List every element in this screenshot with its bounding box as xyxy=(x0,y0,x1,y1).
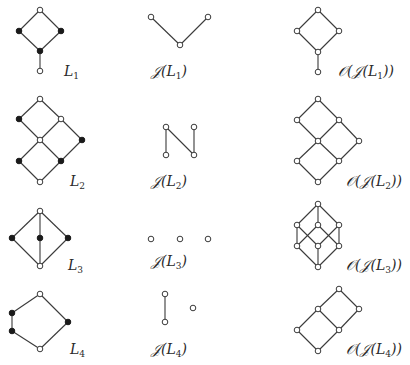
open-node xyxy=(37,179,43,185)
open-node xyxy=(37,291,43,297)
lattice-label-2: L2 xyxy=(70,174,85,191)
filled-node xyxy=(58,158,64,164)
edge xyxy=(40,140,61,161)
open-node xyxy=(177,236,183,242)
join-irreducibles-poset-label-2: 𝒥(L2) xyxy=(151,174,187,191)
edge xyxy=(40,238,68,266)
edge xyxy=(19,99,40,119)
open-node xyxy=(37,7,43,13)
open-node xyxy=(163,152,169,158)
filled-node xyxy=(65,319,71,325)
open-node xyxy=(336,222,342,228)
lattice-4 xyxy=(9,291,71,352)
join-irreducibles-poset-label-3: 𝒥(L3) xyxy=(151,254,187,271)
edge xyxy=(318,99,339,120)
open-node xyxy=(294,222,300,228)
edge xyxy=(297,31,318,52)
edge xyxy=(339,120,359,141)
open-node xyxy=(37,137,43,143)
filled-node xyxy=(37,48,43,54)
edge xyxy=(19,161,40,182)
edge xyxy=(318,10,339,31)
lattice-label-3: L3 xyxy=(68,258,83,275)
open-node xyxy=(294,28,300,34)
open-node xyxy=(294,117,300,123)
open-node xyxy=(162,319,168,325)
filled-node xyxy=(79,137,85,143)
lattice-label-1: L1 xyxy=(64,64,79,81)
open-node xyxy=(294,327,300,333)
edge xyxy=(297,330,318,351)
edge xyxy=(339,289,359,309)
filled-node xyxy=(16,158,22,164)
edge xyxy=(40,119,61,140)
open-node xyxy=(315,348,321,354)
filled-node xyxy=(16,116,22,122)
lattice-2 xyxy=(16,96,85,185)
open-node xyxy=(294,158,300,164)
edge xyxy=(40,322,68,349)
join-irreducibles-poset-2 xyxy=(163,124,197,158)
open-node xyxy=(356,306,362,312)
filled-node xyxy=(65,235,71,241)
down-set-lattice-3 xyxy=(294,201,342,270)
edge xyxy=(12,294,40,313)
edge xyxy=(61,140,82,161)
open-node xyxy=(336,158,342,164)
open-node xyxy=(315,69,321,75)
edge xyxy=(297,120,318,141)
edge xyxy=(151,17,180,45)
open-node xyxy=(37,96,43,102)
edge xyxy=(19,119,40,140)
open-node xyxy=(163,124,169,130)
down-set-lattice-label-2: 𝒪(𝒥(L2)) xyxy=(346,174,402,191)
edge xyxy=(318,330,339,351)
lattice-3 xyxy=(9,208,71,269)
edge xyxy=(40,10,61,31)
filled-node xyxy=(58,28,64,34)
edge xyxy=(180,17,208,45)
open-node xyxy=(336,117,342,123)
edge xyxy=(318,246,339,267)
edge xyxy=(19,140,40,161)
open-node xyxy=(58,116,64,122)
join-irreducibles-poset-label-1: 𝒥(L1) xyxy=(151,64,187,81)
filled-node xyxy=(9,235,15,241)
edge xyxy=(318,204,339,225)
open-node xyxy=(37,68,43,74)
edge xyxy=(12,238,40,266)
join-irreducibles-poset-3 xyxy=(148,236,211,242)
edge xyxy=(297,204,318,225)
edge xyxy=(297,10,318,31)
open-node xyxy=(162,291,168,297)
open-node xyxy=(315,201,321,207)
open-node xyxy=(191,124,197,130)
open-node xyxy=(315,306,321,312)
edge xyxy=(297,141,318,161)
open-node xyxy=(191,152,197,158)
edge xyxy=(318,161,339,182)
open-node xyxy=(336,286,342,292)
edge xyxy=(40,294,68,322)
filled-node xyxy=(9,310,15,316)
edge xyxy=(318,120,339,141)
edge xyxy=(19,10,40,31)
open-node xyxy=(315,138,321,144)
down-set-lattice-2 xyxy=(294,96,362,185)
edge xyxy=(297,246,318,267)
edge xyxy=(12,331,40,349)
edge xyxy=(40,161,61,182)
open-node xyxy=(315,264,321,270)
open-node xyxy=(315,7,321,13)
down-set-lattice-label-4: 𝒪(𝒥(L4)) xyxy=(346,342,402,359)
open-node xyxy=(37,346,43,352)
edge xyxy=(40,99,61,119)
open-node xyxy=(315,243,321,249)
join-irreducibles-poset-label-4: 𝒥(L4) xyxy=(151,342,187,359)
down-set-lattice-label-1: 𝒪(𝒥(L1)) xyxy=(338,64,394,81)
open-node xyxy=(336,28,342,34)
lattice-label-4: L4 xyxy=(70,342,85,359)
open-node xyxy=(205,14,211,20)
filled-node xyxy=(9,328,15,334)
open-node xyxy=(315,96,321,102)
